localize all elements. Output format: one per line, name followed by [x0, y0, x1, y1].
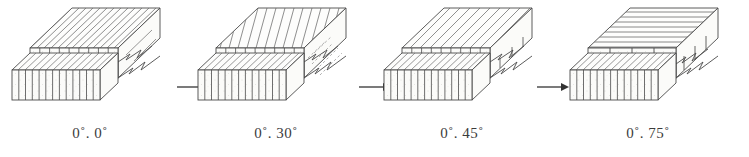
block-illustration-2 — [186, 0, 366, 130]
diagram-panel-3: 0˚. 45˚ — [372, 0, 552, 157]
diagram-panel-1: 0˚. 0˚ — [0, 0, 180, 157]
panel1-caption: 0˚. 0˚ — [0, 125, 180, 142]
diagram-canvas: 0˚. 0˚ — [0, 0, 749, 157]
panel3-caption: 0˚. 45˚ — [372, 125, 552, 142]
diagram-panel-4: 0˚. 75˚ — [558, 0, 738, 157]
block-illustration-4 — [558, 0, 738, 130]
block-illustration-1 — [0, 0, 180, 130]
block-illustration-3 — [372, 0, 552, 130]
panel4-caption: 0˚. 75˚ — [558, 125, 738, 142]
panel2-caption: 0˚. 30˚ — [186, 125, 366, 142]
diagram-panel-2: 0˚. 30˚ — [186, 0, 366, 157]
